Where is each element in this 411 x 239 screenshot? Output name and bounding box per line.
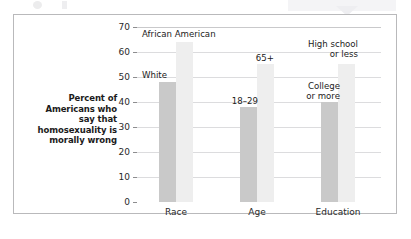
bar-label-18-29: 18–29: [214, 96, 258, 106]
ytick-label-60: 60: [104, 48, 130, 57]
xtick-label-education: Education: [304, 208, 372, 217]
ytick-mark-50: [133, 77, 137, 78]
plot-top-rule: [137, 27, 381, 28]
ytick-mark-10: [133, 177, 137, 178]
bar-label-african-american: African American: [142, 29, 216, 39]
bar-label-high-school-or-less: High school or less: [296, 39, 358, 59]
bar-label-white: White: [142, 70, 167, 80]
ytick-label-30: 30: [104, 123, 130, 132]
bar-race-african-american: [176, 42, 193, 202]
bar-age-18-29: [240, 107, 257, 202]
ytick-label-10: 10: [104, 173, 130, 182]
scan-artifact-top-left: [33, 1, 42, 9]
bar-education-college-or-more: [321, 102, 338, 202]
ytick-label-40: 40: [104, 98, 130, 107]
ytick-mark-60: [133, 52, 137, 53]
scan-artifact-top-right: [288, 0, 396, 11]
ytick-label-50: 50: [104, 73, 130, 82]
bar-label-college-or-more: College or more: [288, 81, 340, 101]
ytick-label-0: 0: [104, 198, 130, 207]
bar-label-65-plus: 65+: [226, 53, 274, 63]
ytick-mark-70: [133, 27, 137, 28]
ytick-mark-30: [133, 127, 137, 128]
ytick-mark-20: [133, 152, 137, 153]
ytick-mark-0: [133, 202, 137, 203]
bar-education-high-school-or-less: [338, 64, 355, 202]
figure-container: Percent of Americans who say that homose…: [0, 0, 411, 239]
ytick-mark-40: [133, 102, 137, 103]
xtick-label-age: Age: [227, 208, 287, 217]
xtick-label-race: Race: [146, 208, 206, 217]
bar-race-white: [159, 82, 176, 202]
ytick-label-20: 20: [104, 148, 130, 157]
scan-artifact-top-left-2: [62, 1, 67, 9]
ytick-label-70: 70: [104, 23, 130, 32]
bar-age-65-plus: [257, 64, 274, 202]
